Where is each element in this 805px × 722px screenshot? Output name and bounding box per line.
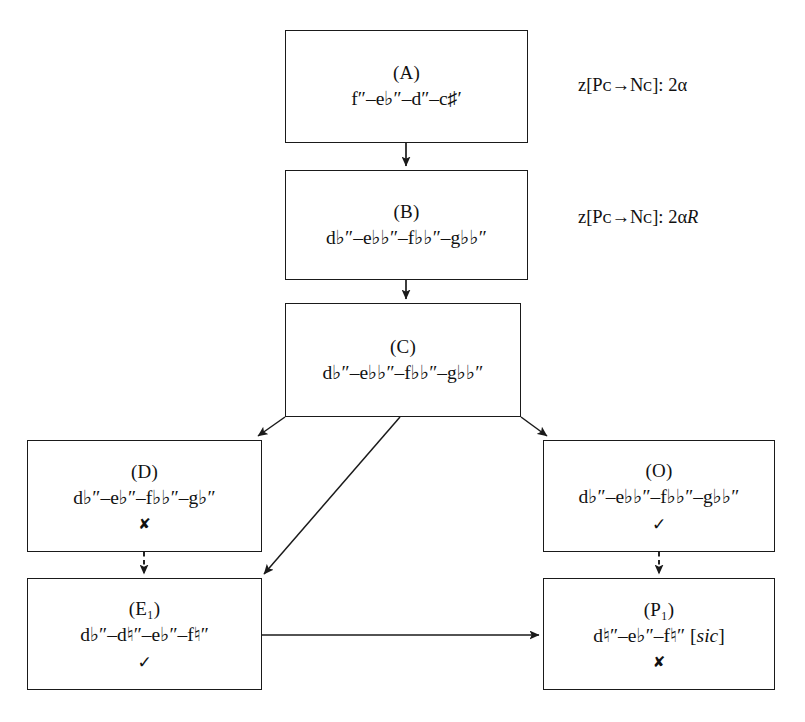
node-e1-pitches: d♭″–d♮″–e♭″–f♮″: [80, 623, 209, 647]
node-o-status-mark: ✓: [652, 516, 666, 533]
node-b[interactable]: (B) d♭″–e♭♭″–f♭♭″–g♭♭″: [285, 170, 528, 280]
node-o-label: (O): [646, 459, 673, 483]
node-p1-status-mark: ✘: [653, 655, 666, 670]
node-c-pitches: d♭″–e♭♭″–f♭♭″–g♭♭″: [323, 361, 484, 385]
node-d-pitches: d♭″–e♭″–f♭♭″–g♭″: [73, 486, 215, 510]
node-o[interactable]: (O) d♭″–e♭♭″–f♭♭″–g♭♭″ ✓: [543, 440, 775, 552]
edge-c-to-e1: [264, 417, 400, 574]
node-p1-label: (P₁): [644, 598, 675, 622]
edge-c-to-o: [521, 417, 547, 436]
diagram-canvas: (A) f″–e♭″–d″–c♯′ (B) d♭″–e♭♭″–f♭♭″–g♭♭″…: [0, 0, 805, 722]
annotation-transformation-a: z[Pᴄ→Nᴄ]: 2α: [578, 75, 687, 96]
node-o-pitches: d♭″–e♭♭″–f♭♭″–g♭♭″: [579, 485, 740, 509]
annotation-transformation-b: z[Pᴄ→Nᴄ]: 2αR: [578, 207, 698, 228]
node-c[interactable]: (C) d♭″–e♭♭″–f♭♭″–g♭♭″: [285, 303, 521, 417]
node-d[interactable]: (D) d♭″–e♭″–f♭♭″–g♭″ ✘: [27, 440, 262, 552]
node-e1-label: (E₁): [129, 597, 161, 621]
node-d-status-mark: ✘: [138, 517, 151, 532]
node-p1[interactable]: (P₁) d♮″–e♭″–f♮″ [sic] ✘: [543, 578, 775, 690]
node-p1-pitches: d♮″–e♭″–f♮″ [sic]: [593, 624, 724, 648]
node-e1-status-mark: ✓: [137, 654, 151, 671]
node-d-label: (D): [131, 460, 158, 484]
node-b-label: (B): [394, 200, 420, 224]
node-e1[interactable]: (E₁) d♭″–d♮″–e♭″–f♮″ ✓: [27, 578, 262, 690]
node-c-label: (C): [390, 335, 416, 359]
edge-c-to-d: [258, 417, 285, 436]
node-a-pitches: f″–e♭″–d″–c♯′: [351, 87, 461, 111]
node-a-label: (A): [393, 61, 420, 85]
node-a[interactable]: (A) f″–e♭″–d″–c♯′: [285, 30, 528, 143]
node-b-pitches: d♭″–e♭♭″–f♭♭″–g♭♭″: [326, 226, 487, 250]
